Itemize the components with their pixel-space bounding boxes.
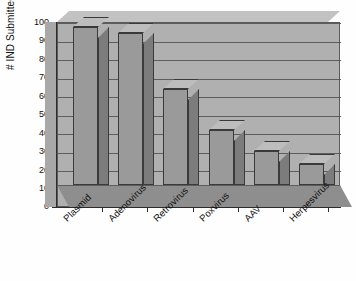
bar-front-face (73, 27, 98, 185)
x-tick-mark (328, 207, 329, 212)
x-tick-mark (102, 207, 103, 212)
bar-front-face (254, 151, 279, 185)
bar-side-face (98, 27, 109, 185)
bar-front-face (163, 89, 188, 185)
bar-herpesvirus (299, 154, 324, 185)
chart-floor-edge (57, 185, 340, 186)
bar-side-face (188, 89, 199, 185)
bar-side-face (143, 33, 154, 185)
y-axis-line (56, 22, 57, 208)
x-tick-mark (193, 207, 194, 212)
x-tick-mark (147, 207, 148, 212)
bar-plasmid (73, 17, 98, 185)
x-tick-mark (283, 207, 284, 212)
x-tick-mark (238, 207, 239, 212)
bar-front-face (118, 33, 143, 185)
plot-area (57, 22, 340, 207)
bar-adenovirus (118, 23, 143, 185)
bar-poxvirus (209, 120, 234, 185)
bar-chart: # IND Submitted 100 90 80 70 60 50 40 30… (0, 0, 356, 281)
bar-aav (254, 141, 279, 185)
bar-front-face (209, 130, 234, 185)
bar-retrovirus (163, 79, 188, 185)
